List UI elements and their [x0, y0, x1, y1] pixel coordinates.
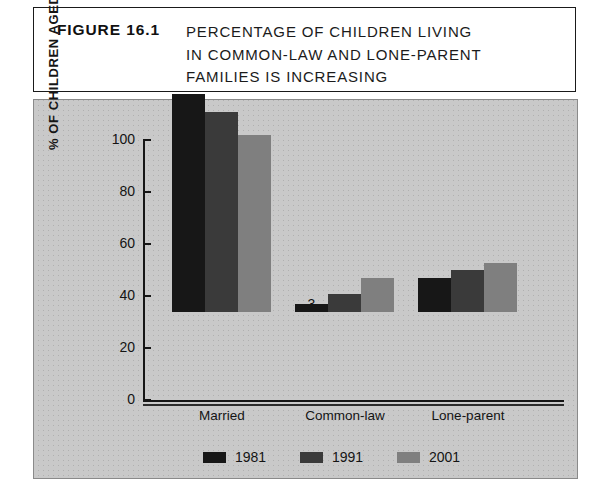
bar-rect	[205, 112, 238, 312]
x-axis-line-secondary	[143, 404, 564, 406]
legend-swatch-1981	[203, 452, 226, 463]
bar-rect	[238, 135, 271, 312]
legend-item-2001: 2001	[397, 449, 460, 465]
legend-label-1981: 1981	[235, 449, 266, 465]
legend-item-1981: 1981	[203, 449, 266, 465]
legend-item-1991: 1991	[300, 449, 363, 465]
bar-rect	[361, 278, 394, 312]
x-category-label-loneparent: Lone-parent	[398, 408, 538, 423]
bars-layer: 84 77 68 3 7 13 13 16	[0, 0, 610, 401]
legend-label-2001: 2001	[429, 449, 460, 465]
x-category-label-commonlaw: Common-law	[275, 408, 415, 423]
bar-rect	[484, 263, 517, 312]
x-category-label-married: Married	[152, 408, 292, 423]
legend-swatch-2001	[397, 452, 420, 463]
legend-label-1991: 1991	[332, 449, 363, 465]
bar-rect	[172, 94, 205, 312]
legend-swatch-1991	[300, 452, 323, 463]
figure-16-1: FIGURE 16.1 PERCENTAGE OF CHILDREN LIVIN…	[0, 0, 610, 489]
